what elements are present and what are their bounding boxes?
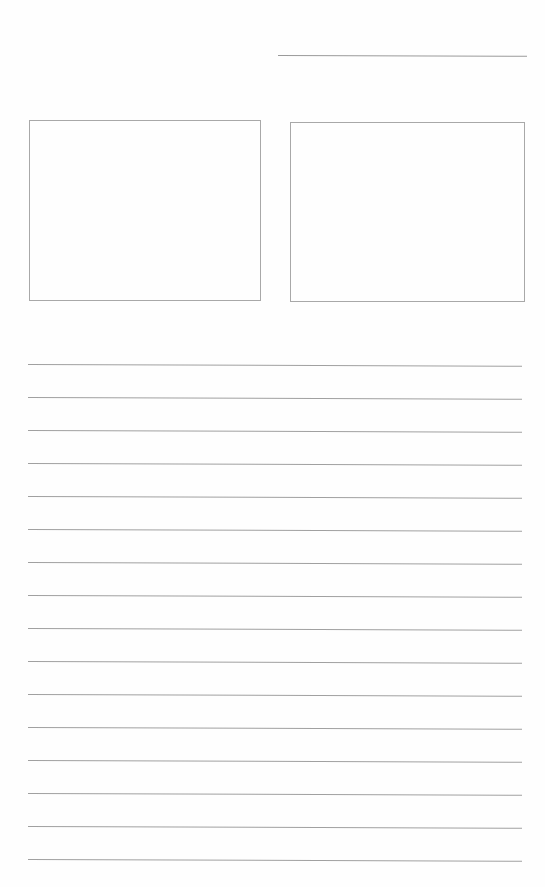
writing-lines [0, 0, 545, 887]
writing-line [28, 826, 522, 829]
writing-line [28, 661, 522, 664]
writing-line [28, 529, 522, 532]
writing-line [28, 628, 522, 631]
writing-line [28, 364, 522, 367]
writing-line [28, 694, 522, 697]
writing-line [28, 595, 522, 598]
writing-line [28, 859, 522, 862]
writing-line [28, 562, 522, 565]
writing-line [28, 760, 522, 763]
writing-line [28, 397, 522, 400]
writing-line [28, 496, 522, 499]
writing-line [28, 793, 522, 796]
writing-line [28, 430, 522, 433]
blank-worksheet-page [0, 0, 545, 887]
writing-line [28, 727, 522, 730]
writing-line [28, 463, 522, 466]
